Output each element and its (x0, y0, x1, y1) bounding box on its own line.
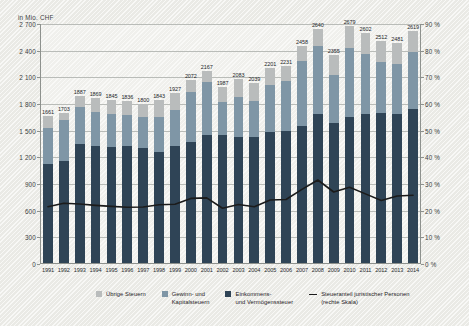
bar-segment (91, 98, 101, 112)
bar-segment (186, 92, 196, 141)
bar[interactable]: 2602 (361, 33, 371, 264)
x-axis-tick-label: 1993 (74, 267, 86, 273)
bar-segment (329, 123, 339, 264)
legend-item-uebrige-steuern[interactable]: Übrige Steuern (96, 290, 146, 298)
bar-segment (75, 96, 85, 106)
bar[interactable]: 1703 (59, 113, 69, 264)
y-axis-right-tick-label: 30 % (425, 181, 440, 188)
bar-segment (218, 135, 228, 264)
bar-value-label: 2231 (280, 58, 292, 64)
bar[interactable]: 1869 (91, 98, 101, 264)
bar-segment (75, 144, 85, 264)
x-axis-tick-label: 2011 (360, 267, 372, 273)
bar-segment (345, 117, 355, 264)
bar-segment (154, 100, 164, 117)
bar-value-label: 2619 (407, 24, 419, 30)
y-axis-right-tick-label: 20 % (425, 207, 440, 214)
bar-segment (234, 137, 244, 264)
bar-segment (376, 41, 386, 62)
legend-item-steueranteil-juristischer-personen[interactable]: Steueranteil juristischer Personen (rech… (309, 290, 409, 307)
bar-value-label: 1987 (217, 80, 229, 86)
y-axis-left-line (40, 24, 41, 264)
bar-segment (218, 87, 228, 101)
x-axis-tick-label: 2001 (201, 267, 213, 273)
bar[interactable]: 1927 (170, 93, 180, 264)
y-axis-right-tickmark (421, 51, 424, 52)
bar-value-label: 2072 (185, 72, 197, 78)
bar-segment (138, 117, 148, 148)
bar-segment (43, 164, 53, 264)
y-axis-left-tick-label: 600 (25, 207, 36, 214)
bar-value-label: 2083 (233, 71, 245, 77)
legend-item-einkommens-vermoegenssteuer[interactable]: Einkommens- und Vermögenssteuer (225, 290, 293, 307)
bar-value-label: 1845 (106, 93, 118, 99)
bar[interactable]: 1661 (43, 116, 53, 264)
bar-segment (107, 114, 117, 147)
bar[interactable]: 1845 (107, 100, 117, 264)
bar[interactable]: 2679 (345, 26, 355, 264)
bar-segment (361, 114, 371, 264)
bar[interactable]: 2481 (392, 43, 402, 264)
bar-value-label: 1800 (137, 97, 149, 103)
bar-segment (122, 101, 132, 115)
legend-label: Gewinn- und Kapitalsteuern (172, 290, 210, 307)
bar[interactable]: 2072 (186, 80, 196, 264)
y-axis-left-tick-label: 1 200 (19, 154, 36, 161)
bar-segment (186, 142, 196, 264)
bar-segment (107, 100, 117, 114)
y-axis-left-tick-label: 1 800 (19, 101, 36, 108)
bar-value-label: 2355 (328, 47, 340, 53)
bar-segment (202, 82, 212, 134)
bar-segment (313, 114, 323, 264)
bar[interactable]: 2355 (329, 55, 339, 264)
bar[interactable]: 1987 (218, 87, 228, 264)
bar-segment (218, 102, 228, 135)
bar[interactable]: 2640 (313, 29, 323, 264)
bar-value-label: 2679 (344, 18, 356, 24)
bar[interactable]: 1836 (122, 101, 132, 264)
bar-segment (43, 128, 53, 164)
bar-segment (281, 131, 291, 264)
bar[interactable]: 2201 (265, 68, 275, 264)
bar-segment (281, 66, 291, 81)
y-axis-right-tickmark (421, 104, 424, 105)
bar-segment (408, 52, 418, 110)
x-axis-tick-label: 2013 (391, 267, 403, 273)
bar[interactable]: 2458 (297, 46, 307, 264)
y-axis-right-line (420, 24, 421, 264)
y-axis-right-tick-label: 50 % (425, 127, 440, 134)
bar[interactable]: 1843 (154, 100, 164, 264)
bar-segment (170, 110, 180, 146)
y-axis-right-tick-label: 80 % (425, 47, 440, 54)
bar[interactable]: 2231 (281, 66, 291, 264)
y-axis-left-tick-label: 2 700 (19, 21, 36, 28)
legend-color-swatch-icon (96, 291, 102, 297)
y-axis-right-tickmark (421, 211, 424, 212)
bar-segment (75, 107, 85, 144)
x-axis-tick-label: 2007 (296, 267, 308, 273)
x-axis-tick-label: 2002 (217, 267, 229, 273)
bar-value-label: 1869 (90, 90, 102, 96)
legend-label: Steueranteil juristischer Personen (rech… (321, 290, 409, 307)
bar-segment (345, 48, 355, 116)
y-axis-right-tickmark (421, 184, 424, 185)
y-axis-right-tickmark (421, 264, 424, 265)
bar-segment (154, 117, 164, 153)
bar-value-label: 2201 (264, 61, 276, 67)
bar[interactable]: 1800 (138, 104, 148, 264)
legend-item-gewinn-kapitalsteuern[interactable]: Gewinn- und Kapitalsteuern (162, 290, 210, 307)
bar[interactable]: 2167 (202, 71, 212, 264)
x-axis-tick-label: 1999 (169, 267, 181, 273)
bar[interactable]: 2619 (408, 31, 418, 264)
bar-value-label: 1843 (153, 93, 165, 99)
bar-value-label: 2458 (296, 38, 308, 44)
x-axis-tick-label: 1996 (121, 267, 133, 273)
bar[interactable]: 2083 (234, 79, 244, 264)
x-axis-tick-label: 1997 (137, 267, 149, 273)
y-axis-left-tick-label: 2 100 (19, 74, 36, 81)
bar[interactable]: 1887 (75, 96, 85, 264)
bar-value-label: 2512 (375, 33, 387, 39)
y-axis-left-tick-label: 1 500 (19, 127, 36, 134)
bar[interactable]: 2512 (376, 41, 386, 264)
bar[interactable]: 2039 (249, 83, 259, 264)
